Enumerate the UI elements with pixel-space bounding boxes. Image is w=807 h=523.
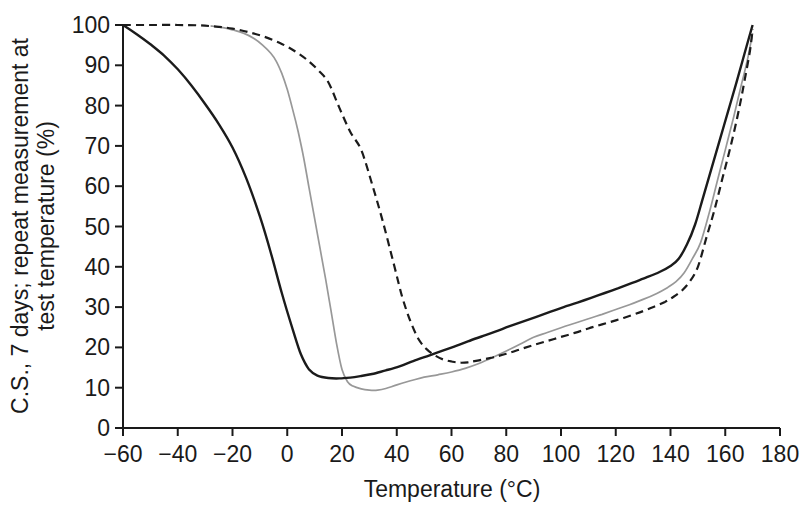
x-axis-title: Temperature (°C): [364, 476, 541, 502]
x-tick-label: 60: [439, 441, 465, 467]
y-tick-label: 100: [72, 12, 110, 38]
x-tick-label: −40: [158, 441, 197, 467]
x-tick-label: 140: [651, 441, 689, 467]
y-axis-title-line2: test temperature (%): [33, 121, 59, 331]
y-tick-label: 0: [97, 415, 110, 441]
x-tick-label: 40: [384, 441, 410, 467]
x-tick-label: 160: [706, 441, 744, 467]
y-tick-label: 80: [84, 93, 110, 119]
x-tick-label: 120: [597, 441, 635, 467]
chart-figure: −60−40−200204060801001201401601800102030…: [0, 0, 807, 523]
x-tick-label: −20: [213, 441, 252, 467]
solid-dark-curve: [123, 25, 753, 378]
x-tick-label: 100: [542, 441, 580, 467]
data-series: [123, 25, 753, 390]
x-tick-label: 180: [761, 441, 799, 467]
y-axis-title-line1: C.S., 7 days; repeat measurement at: [7, 37, 33, 413]
dashed-dark-curve: [123, 25, 753, 363]
y-tick-label: 40: [84, 254, 110, 280]
y-tick-label: 90: [84, 52, 110, 78]
y-tick-label: 70: [84, 133, 110, 159]
x-tick-label: 0: [281, 441, 294, 467]
y-tick-label: 60: [84, 173, 110, 199]
y-tick-label: 10: [84, 375, 110, 401]
y-tick-label: 50: [84, 214, 110, 240]
x-tick-label: −60: [103, 441, 142, 467]
x-tick-label: 80: [493, 441, 519, 467]
x-tick-label: 20: [329, 441, 355, 467]
y-tick-label: 20: [84, 334, 110, 360]
y-tick-label: 30: [84, 294, 110, 320]
line-chart: −60−40−200204060801001201401601800102030…: [0, 0, 807, 523]
